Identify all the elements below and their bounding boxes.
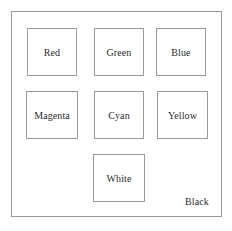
color-box-label-green: Green: [107, 47, 132, 58]
color-box-label-cyan: Cyan: [108, 110, 130, 121]
color-box-label-blue: Blue: [171, 47, 190, 58]
color-box-yellow: Yellow: [157, 91, 208, 139]
color-box-white: White: [93, 154, 145, 202]
color-box-cyan: Cyan: [94, 91, 144, 139]
color-box-label-white: White: [107, 173, 132, 184]
color-box-magenta: Magenta: [26, 91, 78, 139]
color-box-blue: Blue: [156, 28, 206, 76]
color-box-label-magenta: Magenta: [34, 110, 70, 121]
color-box-red: Red: [27, 28, 77, 76]
figure-outer-frame: Red Green Blue Magenta Cyan Yellow White…: [11, 11, 222, 217]
clipped-header-text: [0, 0, 232, 9]
color-box-green: Green: [94, 28, 144, 76]
color-label-black: Black: [185, 196, 209, 207]
color-box-label-yellow: Yellow: [168, 110, 197, 121]
color-box-label-red: Red: [44, 47, 60, 58]
